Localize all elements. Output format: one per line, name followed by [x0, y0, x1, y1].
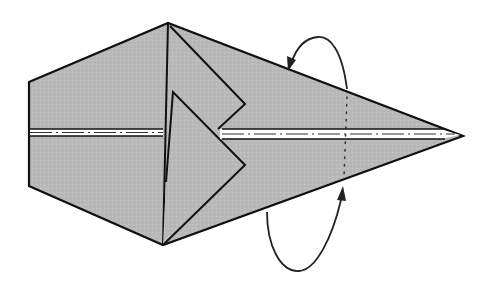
center-crease-right — [220, 129, 460, 139]
origami-diagram — [0, 0, 491, 294]
arrowhead-bottom-icon — [337, 186, 346, 201]
arrowhead-top-icon — [287, 56, 296, 71]
diagram-canvas — [0, 0, 491, 294]
center-crease-left — [30, 129, 163, 136]
